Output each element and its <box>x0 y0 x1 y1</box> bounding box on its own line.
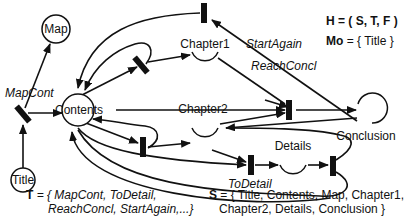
transition-mapcont-label: MapCont <box>5 86 54 100</box>
petri-net-diagram: Title Map Contents Chapter1 Chapter2 Det… <box>0 0 416 220</box>
transition-reachconcl <box>286 100 292 120</box>
definition-t: T = { MapCont, ToDetail, ReachConcl, Sta… <box>26 188 193 216</box>
place-conclusion: Conclusion <box>336 93 395 143</box>
place-map-label: Map <box>44 22 68 36</box>
transition-startagain <box>201 3 207 23</box>
transition-details-exit <box>330 156 336 176</box>
transition-chapter1-entry <box>132 55 149 74</box>
definition-s: S = { Title, Contents, Map, Chapter1, Ch… <box>209 188 404 216</box>
definition-h: H = ( S, T, F ) <box>326 14 398 28</box>
place-contents: Contents <box>55 94 103 126</box>
transition-chapter2-entry <box>140 137 146 157</box>
place-chapter1: Chapter1 <box>180 37 230 61</box>
place-contents-label: Contents <box>55 103 103 117</box>
place-details-label: Details <box>275 139 312 153</box>
transition-reachconcl-label: ReachConcl <box>251 59 317 73</box>
place-details: Details <box>275 139 312 174</box>
place-chapter1-label: Chapter1 <box>180 37 230 51</box>
place-chapter2: Chapter2 <box>178 102 228 137</box>
transition-mapcont <box>14 104 31 123</box>
place-map: Map <box>42 15 70 43</box>
transition-todetail <box>248 155 254 175</box>
definition-mo: Mo = { Title } <box>326 34 394 48</box>
place-title-label: Title <box>12 173 35 187</box>
place-conclusion-label: Conclusion <box>336 129 395 143</box>
place-chapter2-label: Chapter2 <box>178 102 228 116</box>
transition-startagain-label: StartAgain <box>246 37 302 51</box>
